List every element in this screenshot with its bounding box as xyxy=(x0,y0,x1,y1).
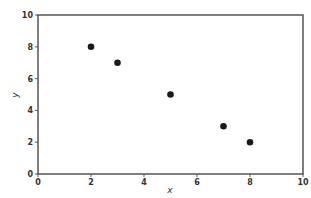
y-tick-label: 4 xyxy=(27,106,33,115)
x-tick-label: 10 xyxy=(297,178,309,187)
data-point xyxy=(220,123,227,130)
data-point xyxy=(247,139,254,146)
y-tick-label: 8 xyxy=(27,43,33,52)
scatter-chart: 0246810 0246810 x y xyxy=(0,0,311,198)
x-axis-label: x xyxy=(166,185,173,195)
x-tick-label: 0 xyxy=(35,178,41,187)
y-tick-label: 2 xyxy=(27,138,33,147)
y-axis-label: y xyxy=(10,92,20,99)
y-tick-label: 0 xyxy=(27,170,33,179)
x-tick-label: 8 xyxy=(247,178,253,187)
y-axis-ticks: 0246810 xyxy=(22,11,38,179)
data-points xyxy=(88,44,254,146)
data-point xyxy=(88,44,95,51)
y-tick-label: 6 xyxy=(27,75,33,84)
x-tick-label: 4 xyxy=(141,178,147,187)
y-tick-label: 10 xyxy=(22,11,34,20)
data-point xyxy=(114,59,121,66)
x-tick-label: 2 xyxy=(88,178,94,187)
data-point xyxy=(167,91,174,98)
x-tick-label: 6 xyxy=(194,178,200,187)
